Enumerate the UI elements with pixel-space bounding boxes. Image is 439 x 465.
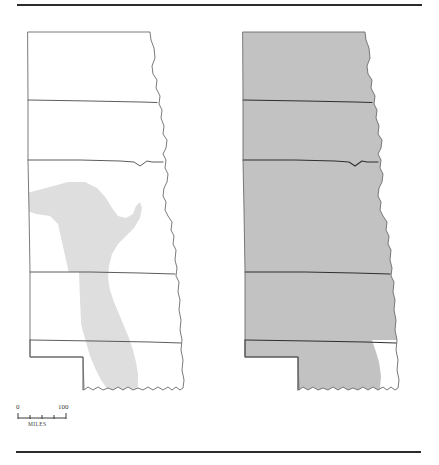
map-right[interactable] [243, 32, 399, 390]
map-left[interactable] [16, 32, 184, 402]
scale-bar: 0 100 MILES [16, 403, 86, 429]
scale-bar-max-label: 100 [58, 403, 69, 411]
map-right-shaded-region [243, 32, 399, 390]
scale-bar-units-label: MILES [28, 421, 47, 427]
top-rule-divider [17, 4, 422, 6]
maps-area [0, 10, 439, 430]
maps-svg [0, 10, 439, 430]
map-left-panhandle-edge [30, 340, 83, 390]
scale-bar-min-label: 0 [16, 403, 20, 411]
figure-container: 0 100 MILES [0, 0, 439, 465]
bottom-rule-divider [16, 451, 421, 453]
